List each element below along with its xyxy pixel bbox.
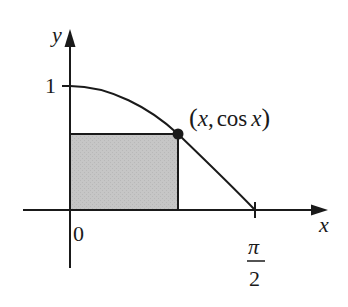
x-axis-label: x [318,212,329,237]
paren-open: ( [189,103,198,132]
paren-close: ) [262,103,271,132]
pi-numerator: π [248,234,260,259]
point-x-cos-x [173,129,184,140]
two-denominator: 2 [249,266,260,291]
point-label: (x,cosx) [189,103,270,132]
y-tick-label: 1 [45,73,56,98]
point-label-x: x [197,106,209,131]
inscribed-rectangle [70,134,178,210]
point-label-comma: , [208,106,214,131]
y-axis-label: y [50,22,62,47]
point-label-cos: cos [217,106,248,131]
point-label-x2: x [250,106,262,131]
origin-label: 0 [73,221,84,246]
y-axis-arrow-icon [65,29,76,47]
cosine-rectangle-diagram: y 1 0 x π 2 (x,cosx) [0,0,348,307]
